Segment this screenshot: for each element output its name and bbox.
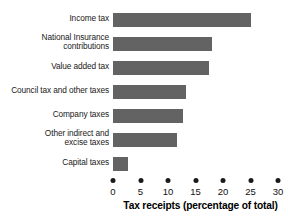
bar-label-line: excise taxes: [65, 137, 109, 147]
bar-category-label: Council tax and other taxes: [0, 86, 109, 95]
axis-tick-label: 25: [236, 186, 266, 197]
bar-row: Other indirect and excise taxes: [0, 128, 288, 152]
axis-tick-dot: [193, 178, 198, 183]
axis-tick-dot: [166, 178, 171, 183]
axis-tick-dot: [221, 178, 226, 183]
bar-label-line: Income tax: [69, 13, 109, 23]
bar-company-taxes: [113, 109, 183, 123]
bar-other-indirect-and-excise-taxes: [113, 133, 177, 147]
bar-category-label: Company taxes: [0, 110, 109, 119]
axis-tick-label: 5: [126, 186, 156, 197]
bar-label-line: Capital taxes: [62, 157, 109, 167]
bar-row: National Insurance contributions: [0, 32, 288, 56]
bar-category-label: National Insurance contributions: [0, 33, 109, 52]
axis-tick-label: 0: [98, 186, 128, 197]
x-axis-title: Tax receipts (percentage of total): [113, 200, 288, 211]
bar-label-line: Value added tax: [51, 61, 109, 71]
bar-row: Council tax and other taxes: [0, 80, 288, 104]
bar-row: Company taxes: [0, 104, 288, 128]
bar-category-label: Capital taxes: [0, 158, 109, 167]
axis-tick-label: 30: [263, 186, 288, 197]
axis-tick-dot: [111, 178, 116, 183]
bar-label-line: Council tax and other taxes: [11, 85, 109, 95]
x-axis: 0 5 10 15 20 25 30 Tax receipts (percent…: [0, 178, 288, 224]
axis-tick-label: 20: [208, 186, 238, 197]
bar-chart: Income tax National Insurance contributi…: [0, 0, 288, 224]
axis-tick-dot: [248, 178, 253, 183]
axis-tick-dot: [138, 178, 143, 183]
bar-row: Income tax: [0, 8, 288, 32]
bar-category-label: Other indirect and excise taxes: [0, 129, 109, 148]
bar-label-line: contributions: [63, 41, 109, 51]
bar-label-line: Company taxes: [53, 109, 109, 119]
bar-category-label: Value added tax: [0, 62, 109, 71]
bar-capital-taxes: [113, 157, 128, 171]
bar-row: Value added tax: [0, 56, 288, 80]
axis-tick-dot: [276, 178, 281, 183]
bar-row: Capital taxes: [0, 152, 288, 176]
bar-value-added-tax: [113, 61, 209, 75]
axis-tick-label: 10: [153, 186, 183, 197]
bar-category-label: Income tax: [0, 14, 109, 23]
bar-income-tax: [113, 13, 251, 27]
bar-council-tax-and-other-taxes: [113, 85, 186, 99]
bar-national-insurance-contributions: [113, 37, 212, 51]
axis-tick-label: 15: [181, 186, 211, 197]
